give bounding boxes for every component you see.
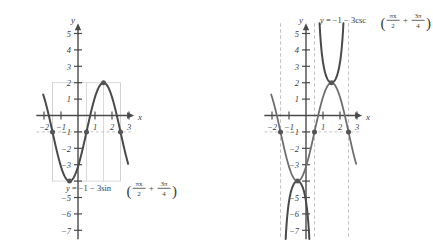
y-tick-label: −7 [289, 226, 300, 236]
cosecant-key-point [295, 179, 300, 184]
y-tick-label: 4 [295, 45, 300, 55]
y-tick-label: 2 [295, 78, 300, 88]
sine-key-point [101, 80, 106, 85]
sine-equation-label-open-paren: ( [127, 183, 132, 200]
cosecant-equation-label-open-paren: ( [381, 15, 386, 32]
y-tick-label: 3 [294, 62, 299, 72]
cosecant-branch [320, 23, 344, 83]
sine-equation-label-arg1-numerator: πx [136, 180, 144, 188]
sine-equation-label-arg2-numerator: 3π [161, 180, 169, 188]
cosecant-equation-label: y = −1 − 3csc(πx2+3π4) [319, 12, 431, 32]
y-tick-label: −6 [61, 209, 72, 219]
trig-graphs-figure: −2−112354321−1−2−3−5−6−7xyy = −1 − 3sin(… [0, 0, 433, 243]
x-tick-label: −2 [39, 122, 50, 132]
sine-graph-panel: −2−112354321−1−2−3−5−6−7xyy = −1 − 3sin(… [0, 0, 216, 243]
y-tick-label: 5 [67, 29, 71, 39]
sine-key-point [118, 129, 123, 134]
y-tick-label: −1 [289, 127, 299, 137]
y-tick-label: 1 [295, 94, 299, 104]
cosecant-graph-panel: −2−112354321−1−2−3−5−6−7xyy = −1 − 3csc(… [216, 0, 433, 243]
y-tick-label: −5 [61, 193, 71, 203]
x-axis-label: x [137, 112, 142, 122]
cosecant-equation-label-arg2-numerator: 3π [415, 12, 423, 20]
cosecant-equation-label-arg1-denominator: 2 [391, 22, 395, 30]
y-axis-arrow [303, 23, 309, 30]
cosecant-key-point [346, 129, 351, 134]
y-tick-label: −7 [61, 226, 72, 236]
sine-equation-label-arg2-denominator: 4 [162, 190, 166, 198]
y-tick-label: 5 [295, 29, 299, 39]
y-axis-arrow [75, 23, 81, 30]
y-tick-label: 4 [67, 45, 72, 55]
x-axis-arrow [355, 112, 362, 118]
y-tick-label: −2 [289, 144, 300, 154]
sine-equation-label-arg1-denominator: 2 [137, 190, 141, 198]
sine-key-point [84, 129, 89, 134]
sine-key-point [50, 129, 55, 134]
y-axis-label: y [70, 15, 75, 25]
x-tick-label: 1 [321, 122, 325, 132]
x-tick-label: 3 [126, 122, 131, 132]
cosecant-equation-label-close-paren: ) [426, 15, 431, 32]
sine-graph-svg: −2−112354321−1−2−3−5−6−7xyy = −1 − 3sin(… [0, 0, 216, 243]
x-tick-label: 1 [93, 122, 97, 132]
y-tick-label: −3 [289, 160, 299, 170]
cosecant-key-point [312, 129, 317, 134]
cosecant-equation-label-arg1-numerator: πx [390, 12, 398, 20]
cosecant-key-point [278, 129, 283, 134]
y-tick-label: 1 [67, 94, 71, 104]
x-tick-label: 2 [110, 122, 115, 132]
sine-equation-label-text: y = −1 − 3sin [65, 183, 112, 193]
x-tick-label: 3 [354, 122, 359, 132]
cosecant-equation-label-plus: + [403, 15, 408, 25]
x-tick-label: −2 [267, 122, 278, 132]
cosecant-equation-label-arg2-denominator: 4 [416, 22, 420, 30]
y-tick-label: −2 [61, 144, 72, 154]
sine-equation-label-plus: + [149, 183, 154, 193]
sine-equation-label-close-paren: ) [172, 183, 177, 200]
y-tick-label: −1 [61, 127, 71, 137]
cosecant-equation-label-text: y = −1 − 3csc [319, 15, 366, 25]
y-axis-label: y [298, 15, 303, 25]
x-tick-label: 2 [338, 122, 343, 132]
x-axis-label: x [365, 112, 370, 122]
cosecant-graph-svg: −2−112354321−1−2−3−5−6−7xyy = −1 − 3csc(… [216, 0, 433, 243]
x-axis-arrow [127, 112, 134, 118]
y-tick-label: −6 [289, 209, 300, 219]
y-tick-label: 3 [66, 62, 71, 72]
cosecant-key-point [329, 80, 334, 85]
